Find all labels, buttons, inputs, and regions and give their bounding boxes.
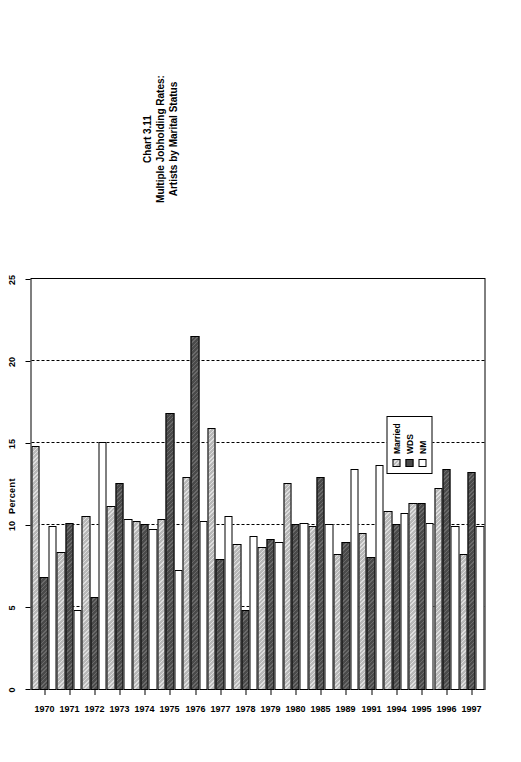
year-group-1971 xyxy=(56,280,81,690)
year-label-text: 1971 xyxy=(59,704,79,714)
bar-wds-1989 xyxy=(341,542,349,690)
year-label-text: 1979 xyxy=(260,704,280,714)
legend-swatch-nm xyxy=(418,459,426,467)
bar-nm-1973 xyxy=(123,519,131,690)
year-tick xyxy=(169,690,170,695)
year-axis-row: 1978 xyxy=(232,690,257,762)
legend-item-married: Married xyxy=(391,423,401,467)
year-axis-row: 1994 xyxy=(383,690,408,762)
bar-wds-1985 xyxy=(316,477,324,690)
year-tick xyxy=(144,690,145,695)
year-label-text: 1995 xyxy=(411,704,431,714)
bar-nm-1985 xyxy=(324,524,332,690)
bar-nm-1996 xyxy=(450,526,458,690)
year-group-1977 xyxy=(207,280,232,690)
year-group-1994 xyxy=(383,280,408,690)
year-label-text: 1997 xyxy=(461,704,481,714)
bar-married-1980 xyxy=(283,483,291,690)
bar-wds-1974 xyxy=(140,524,148,690)
bar-married-1977 xyxy=(207,428,215,690)
x-axis-tick xyxy=(25,361,30,362)
bar-wds-1995 xyxy=(417,503,425,690)
year-group-1995 xyxy=(408,280,433,690)
bar-wds-1975 xyxy=(165,413,173,690)
year-tick xyxy=(245,690,246,695)
year-tick xyxy=(396,690,397,695)
year-tick xyxy=(295,690,296,695)
bar-wds-1980 xyxy=(291,524,299,690)
bar-nm-1989 xyxy=(350,469,358,690)
year-axis-row: 1991 xyxy=(358,690,383,762)
legend-item-nm: NM xyxy=(417,423,427,467)
bar-married-1972 xyxy=(81,516,89,690)
year-axis-row: 1971 xyxy=(56,690,81,762)
bar-married-1979 xyxy=(257,547,265,690)
year-label-1996: 1996 xyxy=(441,699,451,719)
bar-nm-1994 xyxy=(400,513,408,690)
bar-married-1973 xyxy=(106,506,114,690)
bar-nm-1978 xyxy=(249,536,257,690)
legend-item-wds: WDS xyxy=(404,423,414,467)
bar-wds-1977 xyxy=(215,559,223,690)
rotated-chart-stage: Percent 0510152025 197019711972197319741… xyxy=(0,0,521,762)
x-axis-tick-label: 10 xyxy=(6,521,16,531)
year-label-1985: 1985 xyxy=(315,699,325,719)
year-axis-row: 1980 xyxy=(283,690,308,762)
bar-married-1978 xyxy=(232,544,240,690)
year-label-1972: 1972 xyxy=(89,699,99,719)
year-label-text: 1991 xyxy=(361,704,381,714)
x-axis-tick-label: 20 xyxy=(6,357,16,367)
year-label-text: 1970 xyxy=(34,704,54,714)
year-group-1989 xyxy=(333,280,358,690)
year-tick xyxy=(471,690,472,695)
year-label-1977: 1977 xyxy=(215,699,225,719)
year-label-text: 1996 xyxy=(436,704,456,714)
bar-married-1971 xyxy=(56,552,64,690)
bar-wds-1979 xyxy=(266,539,274,690)
year-label-text: 1973 xyxy=(109,704,129,714)
year-label-1976: 1976 xyxy=(190,699,200,719)
year-tick xyxy=(320,690,321,695)
year-axis-row: 1989 xyxy=(333,690,358,762)
bar-married-1974 xyxy=(132,521,140,690)
legend-label-wds: WDS xyxy=(404,434,414,454)
bar-married-1970 xyxy=(31,446,39,690)
year-group-1972 xyxy=(81,280,106,690)
legend-swatch-married xyxy=(392,459,400,467)
year-axis-row: 1976 xyxy=(182,690,207,762)
year-tick xyxy=(371,690,372,695)
x-axis-tick xyxy=(25,525,30,526)
bar-nm-1991 xyxy=(375,465,383,690)
bar-nm-1995 xyxy=(425,523,433,690)
year-label-text: 1975 xyxy=(159,704,179,714)
year-label-text: 1972 xyxy=(84,704,104,714)
bar-nm-1972 xyxy=(98,442,106,690)
year-tick xyxy=(195,690,196,695)
bar-wds-1978 xyxy=(241,610,249,690)
year-group-1985 xyxy=(308,280,333,690)
year-group-1991 xyxy=(358,280,383,690)
bar-nm-1970 xyxy=(48,526,56,690)
year-tick xyxy=(421,690,422,695)
x-axis-tick-label: 5 xyxy=(6,605,16,610)
year-group-1979 xyxy=(257,280,282,690)
year-tick xyxy=(345,690,346,695)
x-axis-tick xyxy=(25,607,30,608)
chart-subtitle-line-1: Multiple Jobholding Rates: xyxy=(153,14,166,264)
year-label-1970: 1970 xyxy=(39,699,49,719)
year-group-1970 xyxy=(31,280,56,690)
legend-label-nm: NM xyxy=(417,441,427,454)
bar-wds-1976 xyxy=(190,336,198,690)
bar-nm-1979 xyxy=(274,542,282,690)
year-axis-row: 1985 xyxy=(308,690,333,762)
bar-married-1991 xyxy=(358,533,366,690)
chart-legend: MarriedWDSNM xyxy=(386,416,432,474)
year-group-1974 xyxy=(132,280,157,690)
bar-married-1994 xyxy=(383,511,391,690)
year-group-1975 xyxy=(157,280,182,690)
bar-wds-1973 xyxy=(115,483,123,690)
year-axis-row: 1970 xyxy=(31,690,56,762)
year-axis-row: 1974 xyxy=(132,690,157,762)
bar-nm-1974 xyxy=(148,529,156,690)
chart-title-block: Chart 3.11 Multiple Jobholding Rates: Ar… xyxy=(140,14,179,264)
